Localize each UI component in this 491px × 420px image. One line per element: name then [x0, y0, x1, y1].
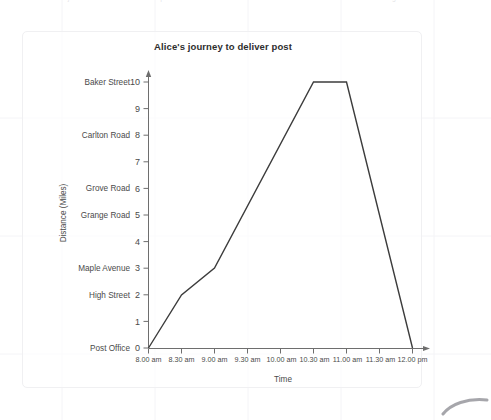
top-cut-text-1: ql — [158, 0, 163, 1]
top-cut-text-2: hn — [218, 0, 226, 1]
chart-title: Alice's journey to deliver post — [23, 41, 423, 52]
corner-scribble-mark — [441, 392, 489, 418]
top-cut-text-strip: nuj ql hn gtv w — [0, 0, 491, 8]
x-axis-arrow — [423, 346, 430, 351]
top-cut-text-0: nuj — [60, 0, 69, 1]
chart-card: Alice's journey to deliver post — [22, 31, 422, 388]
top-cut-text-3: gtv w — [392, 0, 408, 1]
